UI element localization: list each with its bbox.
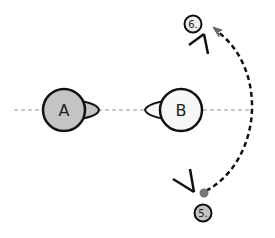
subject-b: B (145, 89, 202, 131)
subject-b-label: B (176, 101, 187, 120)
subject-a-label: A (59, 101, 70, 120)
camera-6-label: 6. (188, 19, 198, 30)
camera-5-label: 5. (198, 208, 208, 219)
camera-move-path (206, 32, 252, 191)
camera-5-badge: 5. (195, 205, 212, 222)
camera-5-position-dot (200, 189, 209, 198)
camera-diagram: A B 5. 6. (0, 0, 275, 238)
subject-a: A (43, 89, 99, 131)
camera-6-icon (189, 34, 208, 54)
camera-5-icon (173, 169, 194, 192)
camera-6-badge: 6. (185, 16, 202, 33)
